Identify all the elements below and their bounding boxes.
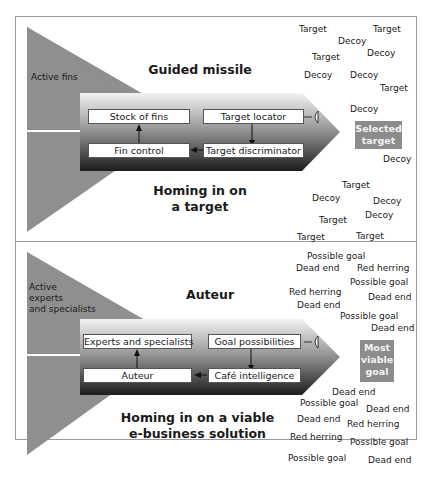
- missile-body-bottom: [80, 319, 340, 395]
- selected-target-line1: Selected: [355, 123, 402, 135]
- scatter-word-possible-goal: Possible goal: [350, 437, 408, 448]
- scatter-word-red-herring: Red herring: [290, 432, 342, 443]
- scatter-word-decoy: Decoy: [373, 196, 401, 207]
- scatter-word-dead-end: Dead end: [296, 263, 340, 274]
- scatter-word-decoy: Decoy: [367, 48, 395, 59]
- scatter-word-dead-end: Dead end: [368, 292, 412, 303]
- scatter-word-target: Target: [319, 215, 347, 226]
- goal-possibilities-box: Goal possibilities: [208, 334, 301, 349]
- stock-of-fins-box: Stock of fins: [88, 109, 190, 124]
- auteur-title: Auteur: [170, 287, 250, 303]
- homing-viable-line2: e-business solution: [120, 426, 275, 442]
- scatter-word-possible-goal: Possible goal: [288, 453, 346, 464]
- experts-specialists-box: Experts and specialists: [83, 334, 192, 349]
- active-experts-line3: and specialists: [29, 304, 96, 315]
- active-experts-label: Active experts and specialists: [29, 282, 96, 315]
- scatter-word-target: Target: [297, 232, 325, 243]
- scatter-word-red-herring: Red herring: [347, 419, 399, 430]
- missile-body-top: [80, 93, 340, 171]
- most-viable-line3: goal: [360, 366, 394, 378]
- active-experts-line2: experts: [29, 293, 96, 304]
- homing-viable-subtitle: Homing in on a viable e-business solutio…: [120, 410, 275, 442]
- scatter-word-red-herring: Red herring: [357, 263, 409, 274]
- scatter-word-decoy: Decoy: [338, 36, 366, 47]
- target-discriminator-box: Target discriminator: [203, 143, 304, 158]
- auteur-box: Auteur: [83, 368, 192, 383]
- scatter-word-decoy: Decoy: [350, 70, 378, 81]
- fin-control-box: Fin control: [88, 143, 190, 158]
- scatter-word-decoy: Decoy: [365, 210, 393, 221]
- selected-target-line2: target: [355, 135, 402, 147]
- scatter-word-target: Target: [299, 24, 327, 35]
- scatter-word-decoy: Decoy: [383, 154, 411, 165]
- scatter-word-dead-end: Dead end: [371, 323, 415, 334]
- scatter-word-red-herring: Red herring: [289, 287, 341, 298]
- cafe-intelligence-box: Café intelligence: [208, 368, 301, 383]
- scatter-word-decoy: Decoy: [312, 193, 340, 204]
- scatter-word-possible-goal: Possible goal: [340, 311, 398, 322]
- scatter-word-decoy: Decoy: [304, 70, 332, 81]
- active-fins-label: Active fins: [31, 72, 78, 83]
- scatter-word-target: Target: [342, 180, 370, 191]
- guided-missile-title: Guided missile: [140, 62, 260, 78]
- scatter-word-target: Target: [373, 24, 401, 35]
- scatter-word-possible-goal: Possible goal: [307, 251, 365, 262]
- scatter-word-dead-end: Dead end: [297, 414, 341, 425]
- scatter-word-dead-end: Dead end: [368, 455, 412, 466]
- scatter-word-dead-end: Dead end: [297, 300, 341, 311]
- scatter-word-possible-goal: Possible goal: [350, 277, 408, 288]
- scatter-word-target: Target: [356, 231, 384, 242]
- scatter-word-dead-end: Dead end: [366, 404, 410, 415]
- scatter-word-possible-goal: Possible goal: [300, 398, 358, 409]
- homing-target-line1: Homing in on: [130, 183, 270, 199]
- scatter-word-target: Target: [312, 52, 340, 63]
- most-viable-line1: Most: [360, 342, 394, 354]
- most-viable-goal-badge: Most viable goal: [360, 340, 394, 382]
- homing-target-subtitle: Homing in on a target: [130, 183, 270, 215]
- homing-viable-line1: Homing in on a viable: [120, 410, 275, 426]
- homing-target-line2: a target: [130, 199, 270, 215]
- active-experts-line1: Active: [29, 282, 96, 293]
- scatter-word-target: Target: [380, 83, 408, 94]
- scatter-word-dead-end: Dead end: [332, 387, 376, 398]
- scatter-word-decoy: Decoy: [350, 104, 378, 115]
- most-viable-line2: viable: [360, 354, 394, 366]
- selected-target-badge: Selected target: [355, 121, 402, 149]
- target-locator-box: Target locator: [203, 109, 304, 124]
